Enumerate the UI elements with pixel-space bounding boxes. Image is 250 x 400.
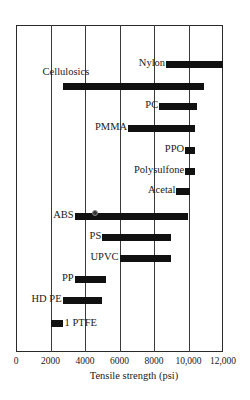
range-bar: [128, 125, 195, 132]
range-bar: [51, 320, 63, 327]
range-bar: [120, 255, 172, 262]
x-tick-label: 12,000: [210, 356, 236, 366]
category-label: Nylon: [139, 57, 165, 69]
category-label: 1 PTFE: [65, 317, 97, 329]
x-axis-label: Tensile strength (psi): [0, 370, 250, 381]
range-bar: [63, 83, 204, 90]
category-label: PS: [90, 230, 102, 242]
x-tick-label: 10,000: [175, 356, 201, 366]
tensile-strength-chart: NylonCellulosicsPCPMMAPPOPolysulfoneAcet…: [0, 0, 250, 400]
category-label: PC: [145, 99, 158, 111]
category-label: HD PE: [32, 293, 62, 305]
range-bar: [185, 168, 195, 175]
category-label: PMMA: [95, 121, 127, 133]
range-bar: [176, 188, 190, 195]
x-tick-label: 2000: [41, 356, 60, 366]
category-label: Acetal: [148, 184, 175, 196]
range-bar: [75, 276, 106, 283]
category-label: Polysulfone: [134, 164, 184, 176]
range-bar: [185, 147, 195, 154]
category-label: Cellulosics: [43, 66, 90, 78]
category-label: UPVC: [90, 251, 118, 263]
range-bar: [159, 103, 197, 110]
category-label: ABS: [53, 209, 73, 221]
x-tick-label: 4000: [76, 356, 95, 366]
x-tick-label: 8000: [145, 356, 164, 366]
category-label: PP: [62, 272, 74, 284]
x-tick-label: 0: [14, 356, 19, 366]
range-bar: [166, 61, 223, 68]
range-bar: [63, 297, 103, 304]
x-tick-label: 6000: [110, 356, 129, 366]
category-label: PPO: [165, 143, 184, 155]
range-bar: [102, 234, 171, 241]
gridline: [120, 25, 121, 352]
